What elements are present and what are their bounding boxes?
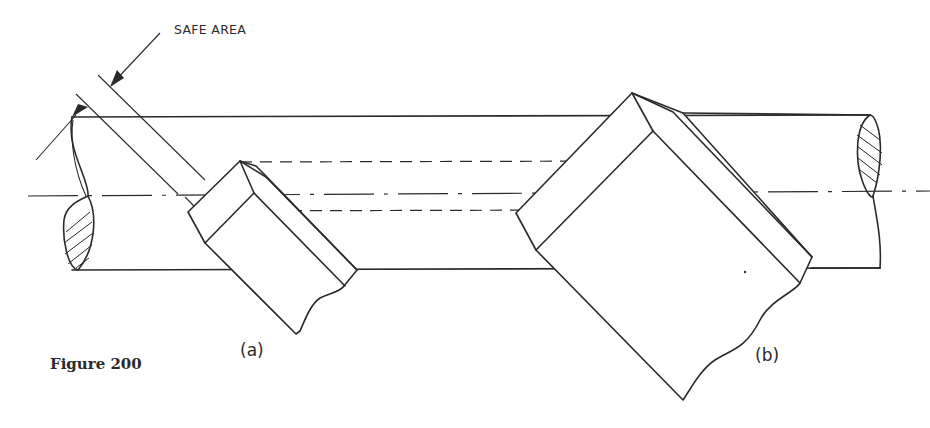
view-b-label: (b) (755, 345, 779, 365)
shaft-right-break (873, 196, 880, 268)
tool-a (188, 161, 357, 334)
speck (744, 271, 746, 273)
figure-caption: Figure 200 (50, 355, 142, 373)
view-a-label: (a) (240, 340, 264, 360)
shaft-centerline (28, 191, 930, 196)
shaft-right-section (857, 115, 880, 197)
arrow-head-right-icon (110, 70, 124, 87)
safe-area-label: SAFE AREA (174, 22, 246, 37)
tool-b (516, 93, 880, 400)
arrow-head-left-icon (72, 104, 88, 117)
technical-drawing: SAFE AREA (a) (b) Figure 200 (0, 0, 930, 428)
shaft-top-edge (72, 115, 870, 117)
extension-line-left (76, 94, 178, 194)
tool-a-body (188, 161, 357, 334)
safe-area-dimension (36, 33, 205, 206)
dimension-curve (72, 120, 86, 196)
extension-line-right (98, 75, 205, 180)
dimension-leader-left (36, 115, 76, 160)
extension-line-right-tail (185, 197, 194, 206)
